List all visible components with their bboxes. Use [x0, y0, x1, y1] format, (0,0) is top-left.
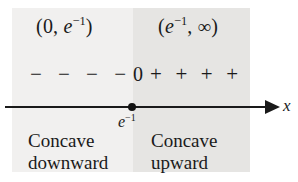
minus-sign: −: [86, 60, 98, 88]
minus-sign: −: [30, 60, 42, 88]
interval-left-lower-bound: 0: [43, 15, 53, 37]
minus-sign: −: [114, 60, 126, 88]
interval-left-open-paren: (: [36, 15, 43, 37]
sign-row-zero: 0: [126, 60, 150, 88]
concavity-caption-right-line1: Concave: [151, 130, 217, 151]
critical-point-dot: [128, 103, 136, 111]
interval-left-upper-bound-exponent: −1: [73, 14, 86, 28]
interval-right-separator: ,: [187, 15, 197, 37]
sign-row-positive: + + + +: [150, 60, 238, 88]
interval-right-close-paren: ): [211, 15, 218, 37]
plus-sign: +: [226, 60, 238, 88]
plus-sign: +: [201, 60, 213, 88]
concavity-caption-left: Concave downward: [28, 130, 108, 174]
interval-right-open-paren: (: [158, 15, 165, 37]
interval-left-separator: ,: [53, 15, 63, 37]
plus-sign: +: [150, 60, 162, 88]
interval-right-lower-bound-exponent: −1: [174, 14, 187, 28]
critical-point-exponent: −1: [125, 112, 136, 123]
interval-right-lower-bound-base: e: [165, 15, 174, 37]
concavity-caption-right: Concave upward: [151, 130, 217, 174]
axis-arrow-icon: [265, 100, 280, 114]
concavity-caption-right-line2: upward: [151, 152, 217, 174]
critical-point-label: e−1: [118, 112, 136, 131]
interval-label-left: (0, e−1): [36, 14, 93, 38]
sign-chart-figure: (0, e−1) (e−1, ∞) − − − − 0 + + + + x e−…: [0, 0, 298, 182]
interval-right-upper-bound-infinity: ∞: [198, 16, 212, 37]
sign-row-negative: − − − −: [30, 60, 126, 88]
number-line-axis: [5, 106, 278, 108]
interval-label-right: (e−1, ∞): [158, 14, 218, 38]
interval-left-close-paren: ): [86, 15, 93, 37]
minus-sign: −: [58, 60, 70, 88]
interval-left-upper-bound-base: e: [63, 15, 72, 37]
axis-label-x: x: [283, 96, 291, 116]
concavity-caption-left-line1: Concave: [28, 130, 94, 151]
plus-sign: +: [175, 60, 187, 88]
concavity-caption-left-line2: downward: [28, 152, 108, 174]
